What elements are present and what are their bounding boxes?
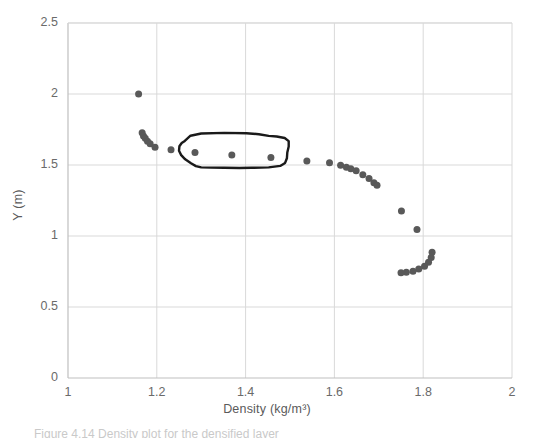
y-tick-label: 2.5 bbox=[16, 15, 58, 29]
y-tick-label: 1 bbox=[16, 228, 58, 242]
scatter-chart: Y (m) Density (kg/m³) 00.511.522.5 11.21… bbox=[0, 0, 534, 438]
y-tick-label: 1.5 bbox=[16, 157, 58, 171]
x-tick-label: 1.8 bbox=[393, 385, 453, 399]
y-tick-label: 2 bbox=[16, 86, 58, 100]
x-axis-title: Density (kg/m³) bbox=[0, 402, 534, 416]
x-tick-label: 1 bbox=[38, 385, 98, 399]
x-tick-label: 1.4 bbox=[216, 385, 276, 399]
y-tick-label: 0 bbox=[16, 370, 58, 384]
gridlines bbox=[68, 23, 512, 378]
x-tick-label: 1.6 bbox=[304, 385, 364, 399]
x-tick-label: 1.2 bbox=[127, 385, 187, 399]
figure-caption: Figure 4.14 Density plot for the densifi… bbox=[34, 427, 454, 438]
plot-canvas bbox=[0, 0, 534, 438]
axis-frame bbox=[68, 23, 512, 378]
y-tick-label: 0.5 bbox=[16, 299, 58, 313]
data-points bbox=[135, 91, 435, 277]
x-tick-label: 2 bbox=[482, 385, 534, 399]
